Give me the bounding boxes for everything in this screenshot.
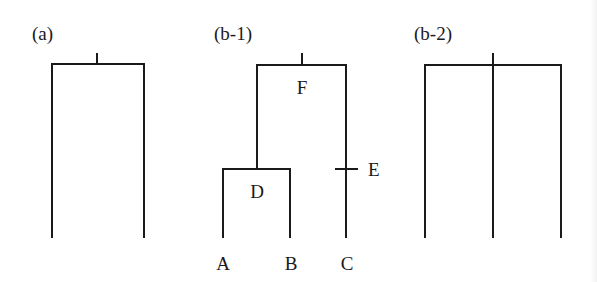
leaf-label-b: B xyxy=(285,253,298,274)
tree-b2 xyxy=(425,54,561,237)
page-edge xyxy=(590,0,597,282)
tree-a xyxy=(52,54,144,237)
tree-b1 xyxy=(223,54,357,237)
panel-a: (a) xyxy=(32,23,144,237)
panel-b1: (b-1) F D E A B C xyxy=(214,23,380,274)
panel-a-label: (a) xyxy=(32,23,53,45)
panel-b2-label: (b-2) xyxy=(414,23,452,45)
diagram-canvas: (a) (b-1) F D E A B C (b-2) xyxy=(0,0,597,282)
node-label-d: D xyxy=(250,181,264,202)
panel-b1-label: (b-1) xyxy=(214,23,252,45)
panel-b2: (b-2) xyxy=(414,23,561,237)
leaf-label-a: A xyxy=(216,253,230,274)
leaf-label-c: C xyxy=(341,253,354,274)
node-label-e: E xyxy=(368,159,380,180)
node-label-f: F xyxy=(297,77,308,98)
